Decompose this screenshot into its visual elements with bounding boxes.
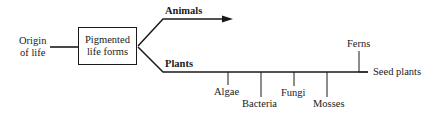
animals-label: Animals [165, 5, 202, 17]
origin-label-line1: Origin [19, 35, 46, 47]
pigmented-life-forms-box: Pigmented life forms [78, 27, 137, 65]
origin-of-life-label: Origin of life [19, 35, 46, 59]
animals-branch-line [138, 19, 225, 46]
algae-label: Algae [214, 86, 239, 98]
origin-label-line2: of life [19, 47, 46, 59]
arrow-right-icon [222, 16, 233, 23]
seed-plants-label: Seed plants [373, 66, 421, 78]
bacteria-label: Bacteria [242, 98, 277, 110]
box-label-line1: Pigmented [85, 34, 130, 46]
diagram-lines [0, 0, 441, 116]
mosses-label: Mosses [313, 98, 345, 110]
box-label-line2: life forms [87, 46, 128, 58]
fungi-label: Fungi [281, 87, 306, 99]
plants-label: Plants [165, 58, 193, 70]
ferns-label: Ferns [347, 38, 370, 50]
